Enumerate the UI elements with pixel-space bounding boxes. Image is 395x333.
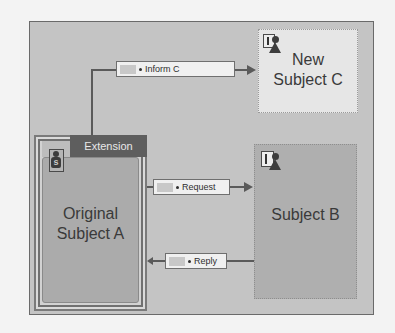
message-type-swatch [169,257,185,266]
message-inform-c-label: Inform C [145,64,180,74]
request-connector-right [229,186,245,188]
message-request[interactable]: Request [153,179,230,195]
subject-b-title: Subject B [255,205,356,225]
subject-a-icon-letter: s [51,157,61,168]
subject-b[interactable]: Subject B [254,144,357,299]
subject-c-title-line1: New [259,50,357,70]
message-reply-label: Reply [194,256,217,266]
reply-connector-right [226,260,254,262]
inform-c-arrow-icon [247,65,256,75]
extension-label[interactable]: Extension [70,135,147,157]
request-arrow-icon [244,182,253,192]
inform-c-connector-vertical [91,70,93,135]
message-type-swatch [157,183,173,192]
subject-c-title-line2: Subject C [259,70,357,90]
bullet-icon [139,68,142,71]
message-type-swatch [120,65,136,74]
message-reply[interactable]: Reply [165,253,227,269]
new-subject-c[interactable]: New Subject C [258,29,358,113]
subject-a-actor-icon: s [49,149,64,172]
message-inform-c[interactable]: Inform C [116,61,235,77]
original-subject-a[interactable]: Original Subject A [42,157,139,303]
inform-c-connector-horizontal [91,69,117,71]
message-request-label: Request [182,182,216,192]
inform-c-connector-right [234,69,248,71]
reply-connector-left [152,260,166,262]
subject-a-title-line1: Original [43,204,138,224]
bullet-icon [176,186,179,189]
subject-a-title-line2: Subject A [43,224,138,244]
bullet-icon [188,260,191,263]
